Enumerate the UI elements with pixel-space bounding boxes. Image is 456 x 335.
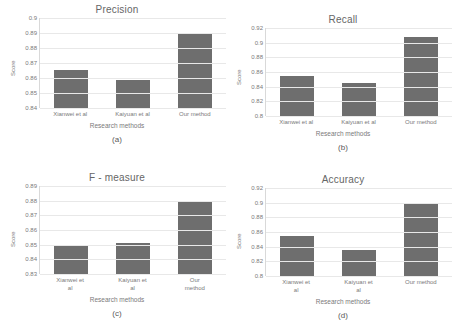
y-axis-tick-label: 0.92 (251, 25, 263, 31)
gridline (266, 116, 452, 117)
y-axis-ticks: 0.890.880.870.860.850.840.83 (17, 186, 39, 274)
gridline (266, 43, 452, 44)
gridline (40, 245, 226, 246)
y-axis-tick-label: 0.88 (25, 45, 37, 51)
plot-area (265, 188, 452, 276)
chart-title: Recall (234, 14, 452, 28)
chart-title: Accuracy (234, 174, 452, 188)
bar (404, 37, 438, 116)
gridline (40, 108, 226, 109)
y-axis-tick-label: 0.86 (25, 227, 37, 233)
chart-body: Score 0.920.90.880.860.840.820.8 Xianwei… (234, 28, 452, 126)
x-axis-tick-label: Our method (164, 110, 226, 118)
gridline (266, 217, 452, 218)
x-axis-title: Research methods (8, 122, 226, 129)
y-axis-tick-label: 0.89 (25, 183, 37, 189)
figure-grid: Precision Score 0.90.890.880.870.860.850… (0, 0, 456, 335)
bar (178, 33, 212, 108)
gridline (40, 63, 226, 64)
chart-panel-f-measure: F - measure Score 0.890.880.870.860.850.… (8, 172, 226, 332)
panel-caption: (c) (8, 309, 226, 318)
chart-body: Score 0.920.90.880.860.840.820.8 Xianwei… (234, 188, 452, 294)
panel-caption: (d) (234, 311, 452, 320)
gridline (40, 215, 226, 216)
plot-area (265, 28, 452, 116)
y-axis-tick-label: 0.9 (255, 40, 263, 46)
gridline (266, 87, 452, 88)
chart-panel-recall: Recall Score 0.920.90.880.860.840.820.8 … (234, 14, 452, 170)
gridline (40, 48, 226, 49)
y-axis-tick-label: 0.87 (25, 60, 37, 66)
y-axis-tick-label: 0.8 (255, 113, 263, 119)
gridline (266, 276, 452, 277)
chart-body: Score 0.890.880.870.860.850.840.83 Xianw… (8, 186, 226, 292)
bar (404, 204, 438, 276)
y-axis-tick-label: 0.84 (251, 84, 263, 90)
gridline (40, 274, 226, 275)
y-axis-tick-label: 0.89 (25, 30, 37, 36)
bar (280, 76, 314, 116)
gridline (40, 78, 226, 79)
y-axis-tick-label: 0.84 (251, 244, 263, 250)
y-axis-title: Score (8, 186, 17, 292)
gridline (40, 259, 226, 260)
y-axis-tick-label: 0.88 (251, 54, 263, 60)
x-axis-tick-label: Xianwei et al (265, 278, 327, 294)
gridline (40, 230, 226, 231)
gridline (266, 203, 452, 204)
panel-caption: (b) (234, 143, 452, 152)
gridline (266, 232, 452, 233)
y-axis-tick-label: 0.84 (25, 256, 37, 262)
bar (54, 70, 88, 108)
gridline (266, 261, 452, 262)
chart-title: Precision (8, 4, 226, 18)
gridline (40, 18, 226, 19)
y-axis-title: Score (234, 188, 243, 294)
y-axis-tick-label: 0.88 (251, 214, 263, 220)
x-axis-ticks: Xianwei et alKaiyuan et alOur method (39, 276, 226, 292)
y-axis-tick-label: 0.82 (251, 258, 263, 264)
y-axis-tick-label: 0.86 (251, 69, 263, 75)
plot-area (39, 186, 226, 274)
y-axis-title: Score (234, 28, 243, 126)
y-axis-ticks: 0.90.890.880.870.860.850.84 (17, 18, 39, 108)
bar (280, 236, 314, 276)
y-axis-tick-label: 0.85 (25, 242, 37, 248)
y-axis-tick-label: 0.84 (25, 105, 37, 111)
plot-area (39, 18, 226, 108)
y-axis-tick-label: 0.85 (25, 90, 37, 96)
x-axis-title: Research methods (234, 130, 452, 137)
bar (342, 250, 376, 276)
x-axis-tick-label: Our method (164, 276, 226, 292)
x-axis-ticks: Xianwei et alKaiyuan et alOur method (39, 110, 226, 118)
x-axis-tick-label: Kaiyuan et al (101, 276, 163, 292)
y-axis-tick-label: 0.88 (25, 198, 37, 204)
y-axis-tick-label: 0.82 (251, 98, 263, 104)
x-axis-ticks: Xianwei et alKaiyuan et alOur method (265, 118, 452, 126)
gridline (266, 57, 452, 58)
bar (116, 80, 150, 108)
x-axis-tick-label: Xianwei et al (39, 276, 101, 292)
x-axis-tick-label: Xianwei et al (265, 118, 327, 126)
plot-wrap: Xianwei et alKaiyuan et alOur method (39, 186, 226, 292)
gridline (40, 201, 226, 202)
y-axis-tick-label: 0.9 (255, 200, 263, 206)
gridline (266, 101, 452, 102)
gridline (266, 28, 452, 29)
chart-panel-precision: Precision Score 0.90.890.880.870.860.850… (8, 4, 226, 168)
gridline (40, 33, 226, 34)
gridline (40, 93, 226, 94)
y-axis-ticks: 0.920.90.880.860.840.820.8 (243, 188, 265, 276)
plot-wrap: Xianwei et alKaiyuan et alOur method (265, 28, 452, 126)
chart-panel-accuracy: Accuracy Score 0.920.90.880.860.840.820.… (234, 174, 452, 334)
x-axis-title: Research methods (8, 296, 226, 303)
y-axis-tick-label: 0.86 (25, 75, 37, 81)
x-axis-title: Research methods (234, 298, 452, 305)
plot-wrap: Xianwei et alKaiyuan et alOur method (39, 18, 226, 118)
y-axis-tick-label: 0.86 (251, 229, 263, 235)
x-axis-tick-label: Xianwei et al (39, 110, 101, 118)
y-axis-tick-label: 0.9 (29, 15, 37, 21)
x-axis-ticks: Xianwei et alKaiyuan et alOur method (265, 278, 452, 294)
gridline (266, 72, 452, 73)
bar (342, 83, 376, 116)
